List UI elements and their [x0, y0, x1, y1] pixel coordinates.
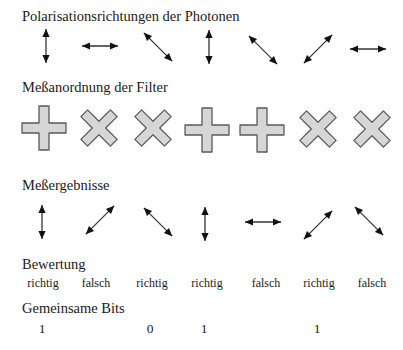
- polarisation-arrow-vertical-icon: [38, 205, 45, 239]
- evaluation-value: richtig: [303, 276, 334, 291]
- evaluation-value: falsch: [82, 276, 111, 291]
- polarisation-arrow-diagonal-down-icon: [355, 207, 383, 235]
- evaluation-value: falsch: [252, 276, 281, 291]
- polarisation-arrow-diagonal-up-icon: [86, 206, 114, 234]
- polarisation-arrow-vertical-icon: [201, 207, 208, 241]
- shared-bit-value: 1: [314, 321, 321, 337]
- polarisation-arrow-diagonal-up-icon: [304, 211, 332, 239]
- shared-bit-value: 1: [201, 321, 208, 337]
- evaluation-value: richtig: [27, 276, 58, 291]
- evaluation-value: richtig: [191, 276, 222, 291]
- polarisation-arrow-diagonal-down-icon: [144, 208, 172, 236]
- shared-bit-value: 0: [147, 321, 154, 337]
- evaluation-value: falsch: [358, 276, 387, 291]
- polarisation-arrow-horizontal-icon: [245, 218, 281, 225]
- shared-bits-heading: Gemeinsame Bits: [22, 300, 125, 317]
- evaluation-value: richtig: [136, 276, 167, 291]
- measurement-results-row: [0, 0, 403, 350]
- shared-bit-value: 1: [39, 321, 46, 337]
- evaluation-heading: Bewertung: [22, 256, 86, 273]
